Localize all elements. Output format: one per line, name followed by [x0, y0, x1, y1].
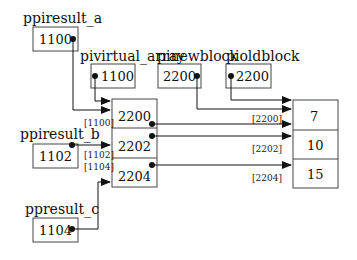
virtual-array-address-1: [1102] [84, 151, 114, 160]
virtual-array-address-2: [1104] [84, 163, 114, 172]
pointer-label-ppresult-c: ppresult_c [25, 202, 99, 216]
virtual-array-cell-0: 2200 [118, 110, 151, 123]
pointer-label-ppiresult-b: ppiresult_b [20, 127, 100, 141]
pointer-value-ppresult-c: 1104 [39, 224, 72, 237]
virtual-array-address-0: [1100] [84, 119, 114, 128]
virtual-array-cell-2: 2204 [118, 170, 151, 183]
data-block-address-1: [2202] [252, 145, 282, 154]
pointer-label-pioldblock: pioldblock [226, 49, 300, 63]
pointer-value-ppiresult-a: 1100 [39, 33, 72, 46]
pointer-label-ppiresult-a: ppiresult_a [23, 11, 102, 25]
pointer-value-pivirtual-array: 1100 [101, 70, 134, 83]
virtual-array-cell-1: 2202 [118, 140, 151, 153]
pointer-value-pinewblock: 2200 [163, 70, 196, 83]
data-block-address-2: [2204] [252, 174, 282, 183]
pointer-value-pioldblock: 2200 [236, 70, 269, 83]
pointer-value-ppiresult-b: 1102 [39, 150, 72, 163]
data-block-address-0: [2200] [252, 115, 282, 124]
data-block-cell-0: 7 [310, 110, 318, 123]
data-block-cell-2: 15 [307, 168, 324, 181]
data-block-cell-1: 10 [307, 139, 324, 152]
